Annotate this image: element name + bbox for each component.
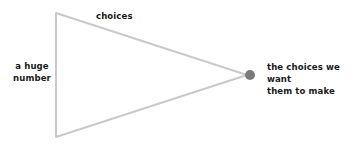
diagram-canvas: a huge number choices the choices we wan… — [0, 0, 362, 147]
endpoint-dot — [245, 70, 255, 80]
label-a-huge-number: a huge number — [8, 60, 56, 84]
label-choices-we-want: the choices we want them to make — [267, 61, 359, 97]
label-choices: choices — [96, 10, 133, 22]
triangle-shape — [56, 13, 247, 137]
